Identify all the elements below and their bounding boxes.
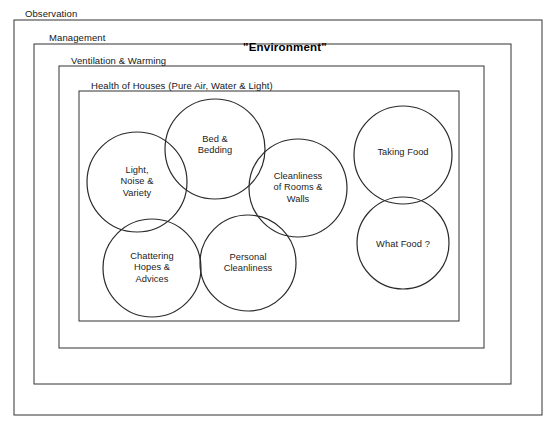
layer-label-observation: Observation — [25, 8, 77, 19]
circle-what-food — [357, 197, 449, 289]
layer-label-management: Management — [49, 32, 105, 43]
circle-taking-food — [354, 106, 452, 204]
layer-rect-health-of-houses — [79, 91, 459, 321]
circle-cleanliness-rooms-walls — [249, 139, 347, 237]
layer-rect-ventilation-warming — [59, 66, 484, 348]
circle-bed-bedding — [165, 99, 265, 199]
layer-label-ventilation-warming: Ventilation & Warming — [71, 55, 166, 66]
circle-light-noise-variety — [87, 132, 187, 232]
diagram-canvas: Nursing ObservationManagementVentilation… — [0, 0, 554, 426]
circle-personal-cleanliness — [200, 215, 296, 311]
layer-label-health-of-houses: Health of Houses (Pure Air, Water & Ligh… — [91, 80, 273, 91]
circle-chattering-hopes-advices — [103, 219, 201, 317]
environment-title: "Environment" — [243, 41, 327, 53]
